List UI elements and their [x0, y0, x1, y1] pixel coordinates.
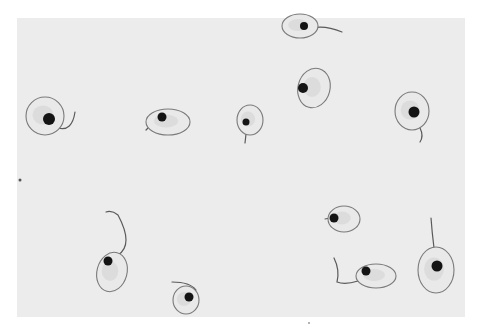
- nucleus: [104, 257, 113, 266]
- nucleus: [298, 83, 308, 93]
- nucleus: [330, 214, 339, 223]
- nucleus: [185, 293, 194, 302]
- nucleus: [362, 267, 371, 276]
- nucleus: [409, 107, 420, 118]
- micrograph-field: [17, 18, 465, 317]
- debris-speck: [308, 322, 310, 324]
- cell: [146, 109, 190, 135]
- nucleus: [243, 119, 250, 126]
- nucleus: [432, 261, 443, 272]
- nucleus: [158, 113, 167, 122]
- nucleus: [300, 22, 308, 30]
- micrograph-scene: [0, 0, 481, 334]
- debris-speck: [19, 179, 22, 182]
- nucleus: [43, 113, 55, 125]
